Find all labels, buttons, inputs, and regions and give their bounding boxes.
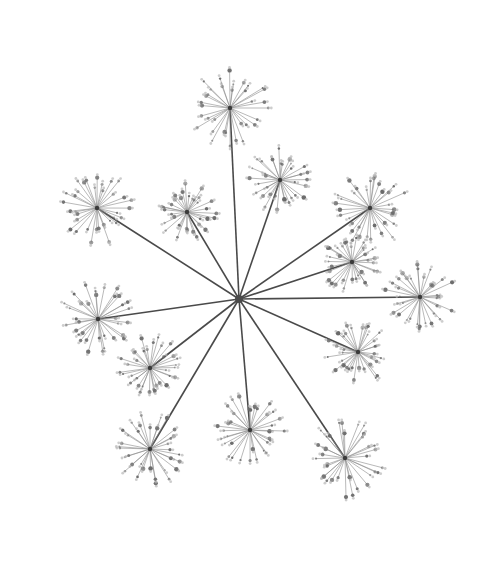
umbellet bbox=[324, 234, 382, 293]
umbellet bbox=[59, 173, 136, 247]
umbellet bbox=[312, 419, 387, 502]
umbellet bbox=[158, 179, 221, 241]
umbellet bbox=[60, 281, 133, 356]
umbellet bbox=[381, 260, 456, 333]
ray bbox=[230, 108, 239, 299]
umbellets bbox=[59, 66, 456, 502]
umbellet bbox=[193, 66, 273, 150]
umbel-illustration bbox=[0, 0, 494, 563]
umbellet bbox=[245, 144, 312, 214]
ray bbox=[239, 262, 352, 299]
hub bbox=[235, 295, 243, 303]
ray bbox=[239, 297, 420, 299]
umbel-photo bbox=[0, 0, 494, 563]
ray bbox=[239, 208, 370, 299]
umbellet bbox=[213, 392, 288, 465]
ray bbox=[150, 299, 239, 449]
ray bbox=[187, 212, 239, 299]
umbellet bbox=[115, 411, 184, 488]
umbellet bbox=[323, 322, 385, 385]
umbellet bbox=[332, 172, 409, 244]
umbellet bbox=[116, 333, 182, 396]
